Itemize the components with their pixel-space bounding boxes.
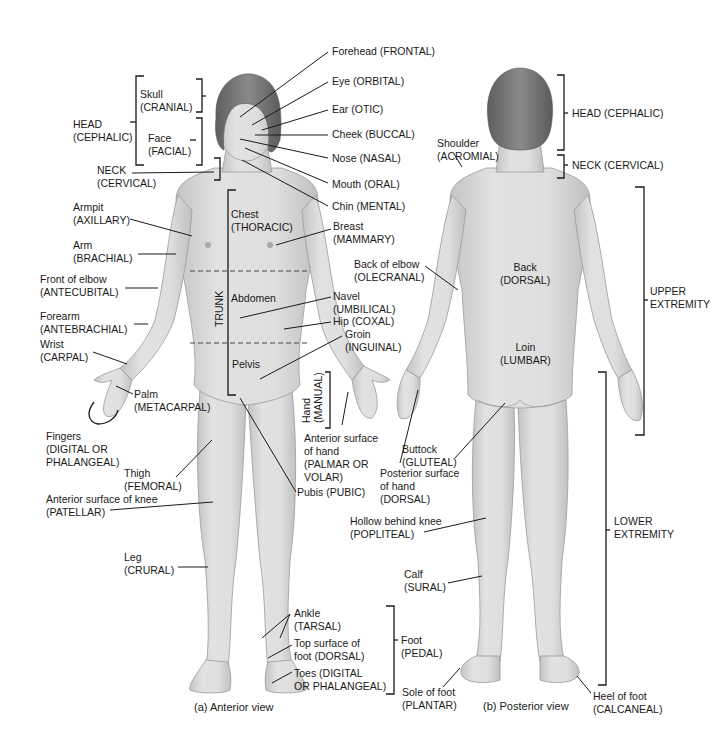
- label-ear-otic: Ear (OTIC): [332, 103, 383, 116]
- label-breast-mammary: Breast (MAMMARY): [333, 220, 395, 246]
- label-loin-lumbar: Loin (LUMBAR): [500, 341, 551, 367]
- label-top-foot-dorsal: Top surface of foot (DORSAL): [294, 637, 365, 663]
- label-abdomen: Abdomen: [231, 292, 276, 305]
- label-front-elbow-antecubital: Front of elbow (ANTECUBITAL): [40, 273, 119, 299]
- label-armpit-axillary: Armpit (AXILLARY): [73, 201, 130, 227]
- label-lower-extremity: LOWER EXTREMITY: [614, 515, 674, 541]
- label-toes-digital: Toes (DIGITAL OR PHALANGEAL): [294, 667, 386, 693]
- label-buttock-gluteal: Buttock (GLUTEAL): [402, 443, 457, 469]
- label-anterior-hand-palmar: Anterior surface of hand (PALMAR OR VOLA…: [304, 432, 378, 484]
- label-posterior-head-cephalic: HEAD (CEPHALIC): [572, 107, 664, 120]
- label-back-dorsal: Back (DORSAL): [500, 261, 550, 287]
- label-nose-nasal: Nose (NASAL): [332, 152, 401, 165]
- label-shoulder-acromial: Shoulder (ACROMIAL): [437, 137, 499, 163]
- label-heel-calcaneal: Heel of foot (CALCANEAL): [593, 690, 662, 716]
- label-leg-crural: Leg (CRURAL): [124, 551, 174, 577]
- label-hip-coxal: Hip (COXAL): [333, 315, 394, 328]
- label-sole-plantar: Sole of foot (PLANTAR): [402, 686, 457, 712]
- label-back-elbow-olecranal: Back of elbow (OLECRANAL): [354, 258, 425, 284]
- label-upper-extremity: UPPER EXTREMITY: [650, 285, 710, 311]
- anatomy-figure: HEAD (CEPHALIC) Skull (CRANIAL) Face (FA…: [0, 0, 723, 756]
- label-hollow-knee-popliteal: Hollow behind knee (POPLITEAL): [350, 515, 442, 541]
- label-eye-orbital: Eye (ORBITAL): [332, 75, 404, 88]
- label-posterior-hand-dorsal: Posterior surface of hand (DORSAL): [380, 467, 459, 506]
- label-palm-metacarpal: Palm (METACARPAL): [134, 388, 211, 414]
- label-wrist-carpal: Wrist (CARPAL): [40, 338, 88, 364]
- label-neck-cervical: NECK (CERVICAL): [97, 164, 156, 190]
- label-pelvis: Pelvis: [232, 358, 260, 371]
- label-hand-manual: Hand (MANUAL): [300, 372, 324, 423]
- label-groin-inguinal: Groin (INGUINAL): [345, 328, 402, 354]
- label-arm-brachial: Arm (BRACHIAL): [73, 239, 133, 265]
- label-knee-patellar: Anterior surface of knee (PATELLAR): [46, 493, 157, 519]
- label-forehead-frontal: Forehead (FRONTAL): [332, 45, 435, 58]
- caption-anterior-view: (a) Anterior view: [194, 701, 273, 713]
- label-chest-thoracic: Chest (THORACIC): [231, 208, 293, 234]
- label-cheek-buccal: Cheek (BUCCAL): [332, 128, 415, 141]
- label-mouth-oral: Mouth (ORAL): [332, 178, 400, 191]
- label-skull-cranial: Skull (CRANIAL): [140, 88, 193, 114]
- label-thigh-femoral: Thigh (FEMORAL): [124, 467, 182, 493]
- label-calf-sural: Calf (SURAL): [404, 568, 446, 594]
- label-trunk: TRUNK: [213, 291, 225, 327]
- label-face-facial: Face (FACIAL): [148, 132, 191, 158]
- anterior-nipple-left: [205, 242, 211, 248]
- label-ankle-tarsal: Ankle (TARSAL): [294, 607, 341, 633]
- label-chin-mental: Chin (MENTAL): [332, 200, 405, 213]
- label-fingers-digital: Fingers (DIGITAL OR PHALANGEAL): [46, 430, 120, 469]
- caption-posterior-view: (b) Posterior view: [483, 700, 569, 712]
- label-foot-pedal: Foot (PEDAL): [401, 634, 442, 660]
- label-posterior-neck-cervical: NECK (CERVICAL): [572, 159, 663, 172]
- label-navel-umbilical: Navel (UMBILICAL): [333, 290, 395, 316]
- label-head-cephalic: HEAD (CEPHALIC): [73, 118, 133, 144]
- label-pubis-pubic: Pubis (PUBIC): [297, 486, 365, 499]
- label-forearm-antebrachial: Forearm (ANTEBRACHIAL): [40, 310, 128, 336]
- anterior-nipple-right: [267, 242, 273, 248]
